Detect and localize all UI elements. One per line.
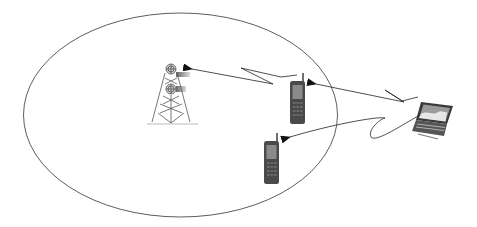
network-diagram [0,0,477,227]
wireless-link-arrow [192,68,297,84]
cell-tower-icon [147,64,198,124]
wireless-link-arrow [290,115,420,138]
mobile-phone-icon [290,73,305,124]
mobile-phone-icon [264,133,279,184]
laptop-icon [412,102,453,139]
